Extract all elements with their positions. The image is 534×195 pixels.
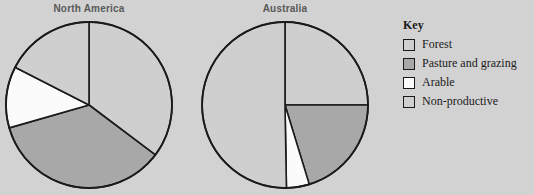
pie-chart-australia [202,22,368,188]
legend-label-arable: Arable [422,76,455,89]
legend: Key Forest Pasture and grazing Arable No… [403,19,531,111]
legend-label-non-productive: Non-productive [422,95,498,108]
legend-label-pasture-and-grazing: Pasture and grazing [422,57,517,70]
legend-item-non-productive: Non-productive [403,92,531,111]
legend-swatch-non-productive [403,96,415,108]
legend-swatch-pasture-and-grazing [403,58,415,70]
pie-slice-forest [285,22,368,105]
pie-chart-north-america [6,22,172,188]
legend-label-forest: Forest [422,38,452,51]
legend-item-arable: Arable [403,73,531,92]
legend-swatch-forest [403,39,415,51]
legend-item-pasture-and-grazing: Pasture and grazing [403,54,531,73]
legend-title: Key [403,19,531,32]
legend-swatch-arable [403,77,415,89]
pie-chart-figure: North America Australia Key Forest Pastu… [0,0,534,195]
pie-slice-non-productive [202,22,286,188]
legend-item-forest: Forest [403,35,531,54]
